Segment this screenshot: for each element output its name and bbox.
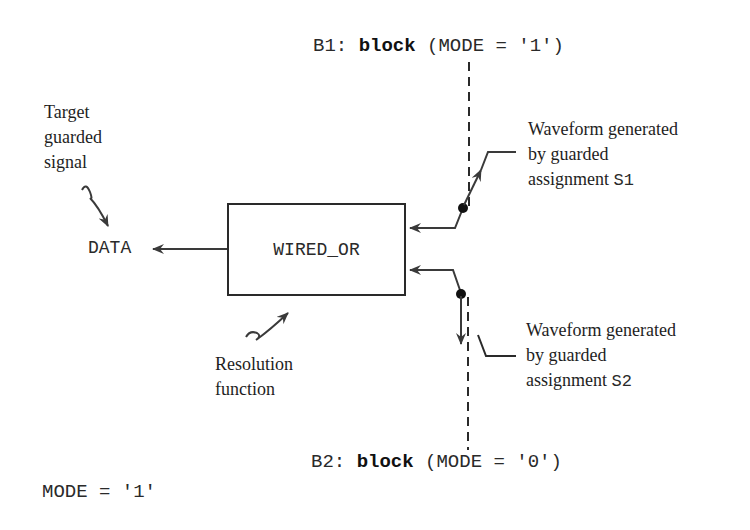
waveform-s2-line: assignment — [526, 370, 612, 390]
guarded-signal-diagram: B1: block (MODE = '1') Target guarded si… — [0, 0, 750, 530]
block-b1-guard: (MODE = '1') — [427, 35, 564, 57]
s1-callout-line — [481, 152, 516, 170]
block-b2-keyword: block — [357, 451, 414, 473]
waveform-s2-annotation: Waveform generated by guarded assignment… — [526, 318, 676, 394]
resolution-annotation-line: Resolution — [215, 352, 293, 377]
waveform-s2-line: Waveform generated — [526, 318, 676, 343]
s2-callout-line — [478, 335, 516, 356]
block-b1-keyword: block — [359, 35, 416, 57]
resolution-function-box: WIRED_OR — [227, 203, 406, 296]
target-annotation-line: Target — [44, 100, 102, 125]
resolution-annotation-line: function — [215, 377, 293, 402]
resolution-annotation: Resolution function — [215, 352, 293, 402]
waveform-s1-name: S1 — [614, 171, 634, 190]
block-b2-header: B2: block (MODE = '0') — [311, 451, 562, 473]
waveform-s2-name: S2 — [612, 372, 632, 391]
target-annotation: Target guarded signal — [44, 100, 102, 175]
block-b1-header: B1: block (MODE = '1') — [313, 35, 564, 57]
target-squiggle-arrow — [82, 186, 108, 226]
s1-driver-path — [410, 208, 463, 228]
waveform-s1-line: Waveform generated — [528, 117, 678, 142]
s1-driver-dot — [458, 203, 468, 213]
resolution-squiggle-arrow — [246, 313, 288, 340]
mode-value: MODE = '1' — [42, 481, 156, 503]
s1-callout-arrow — [464, 170, 481, 205]
block-b2-label: B2: — [311, 451, 345, 473]
target-annotation-line: signal — [44, 150, 102, 175]
waveform-s1-annotation: Waveform generated by guarded assignment… — [528, 117, 678, 193]
resolution-function-label: WIRED_OR — [273, 240, 359, 260]
waveform-s1-line: assignment — [528, 169, 614, 189]
target-annotation-line: guarded — [44, 125, 102, 150]
target-signal-data: DATA — [88, 238, 131, 258]
block-b1-label: B1: — [313, 35, 347, 57]
waveform-s2-line: by guarded — [526, 343, 676, 368]
block-b2-guard: (MODE = '0') — [425, 451, 562, 473]
waveform-s1-line: by guarded — [528, 142, 678, 167]
s2-driver-path — [410, 270, 461, 293]
